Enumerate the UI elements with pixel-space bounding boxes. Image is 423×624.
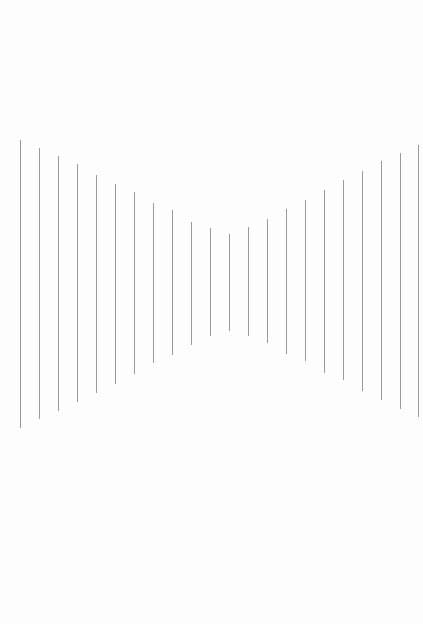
vertical-line-1 — [20, 140, 21, 428]
vertical-line-14 — [267, 219, 268, 343]
vertical-line-6 — [115, 184, 116, 384]
vertical-line-12 — [229, 234, 230, 331]
vertical-line-10 — [191, 222, 192, 345]
line-diagram — [0, 0, 423, 624]
vertical-line-9 — [172, 210, 173, 355]
vertical-line-13 — [248, 227, 249, 336]
vertical-line-16 — [305, 200, 306, 361]
vertical-line-5 — [96, 175, 97, 393]
vertical-line-15 — [286, 209, 287, 354]
vertical-line-11 — [210, 228, 211, 336]
vertical-line-17 — [324, 190, 325, 373]
vertical-line-21 — [400, 153, 401, 409]
vertical-line-4 — [77, 164, 78, 402]
vertical-line-3 — [58, 156, 59, 411]
vertical-line-19 — [362, 171, 363, 391]
vertical-line-8 — [153, 203, 154, 363]
vertical-line-20 — [381, 161, 382, 400]
vertical-line-22 — [418, 145, 419, 417]
vertical-line-18 — [343, 180, 344, 380]
vertical-line-2 — [39, 148, 40, 419]
vertical-line-7 — [134, 192, 135, 374]
